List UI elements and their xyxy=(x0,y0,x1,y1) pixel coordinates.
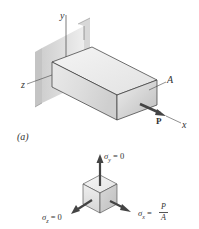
x-axis-label: x xyxy=(182,120,186,130)
sigma-x-subscript: x xyxy=(142,214,145,220)
x-axis-line xyxy=(166,116,181,123)
area-label: A xyxy=(167,75,173,85)
sigma-z-label: σz = 0 xyxy=(42,213,62,224)
sigma-x-equals: = xyxy=(147,208,152,218)
sigma-x-arrow xyxy=(110,201,131,212)
sigma-x-label: σx = xyxy=(138,209,152,220)
part-a-label: (a) xyxy=(17,132,29,142)
figure-graphics xyxy=(0,0,199,229)
sigma-y-label: σy = 0 xyxy=(104,152,124,163)
sigma-y-value: = 0 xyxy=(113,151,124,161)
load-label-p: P xyxy=(156,117,162,126)
sigma-x-fraction: P A xyxy=(159,203,168,222)
fraction-denominator: A xyxy=(161,214,166,222)
axial-load-figure: y z x A P (a) σy = 0 σz = 0 σx = P A xyxy=(0,0,199,229)
y-axis-label: y xyxy=(60,11,64,21)
sigma-y-subscript: y xyxy=(108,157,111,163)
sigma-z-value: = 0 xyxy=(51,212,62,222)
prismatic-bar xyxy=(52,47,157,120)
z-axis-label: z xyxy=(21,80,25,90)
fraction-numerator: P xyxy=(161,203,166,211)
sigma-z-subscript: z xyxy=(46,218,48,224)
